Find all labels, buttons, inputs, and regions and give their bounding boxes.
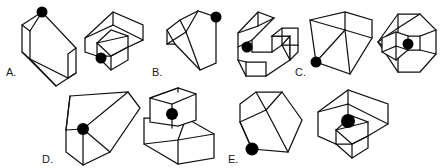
item-label-d: D. [42, 153, 53, 165]
figure-canvas: A. [0, 0, 446, 168]
vertex-marker-dot [77, 123, 89, 135]
item-c-left-figure [310, 12, 372, 74]
item-e-right-figure [318, 90, 388, 158]
item-label-a: A. [6, 66, 16, 78]
vertex-marker-dot [246, 143, 259, 156]
vertex-marker-dot [166, 108, 178, 120]
item-a: A. [6, 7, 143, 87]
item-label-e: E. [228, 153, 238, 165]
vertex-marker-dot [341, 114, 355, 128]
item-d-right-figure [144, 88, 214, 164]
item-d: D. [42, 88, 214, 165]
vertex-marker-dot [211, 12, 222, 23]
item-b: B. [152, 11, 298, 78]
item-a-left-figure [22, 7, 76, 87]
shape-face [150, 88, 196, 126]
item-label-b: B. [152, 66, 162, 78]
vertex-marker-dot [242, 42, 253, 53]
item-label-c: C. [295, 66, 306, 78]
vertex-marker-dot [403, 39, 414, 50]
vertex-marker-dot [96, 53, 107, 64]
figure-sheet: A. [0, 0, 446, 168]
item-e: E. [228, 90, 388, 165]
vertex-marker-dot [311, 57, 322, 68]
item-d-left-figure [66, 92, 140, 165]
item-e-left-figure [240, 92, 302, 156]
item-a-right-figure [85, 12, 143, 70]
item-b-left-figure [167, 11, 222, 70]
item-c: C. [295, 12, 436, 78]
item-c-right-figure [378, 14, 436, 72]
vertex-marker-dot [37, 7, 48, 18]
item-b-right-figure [238, 12, 298, 76]
shape-face [167, 11, 216, 70]
